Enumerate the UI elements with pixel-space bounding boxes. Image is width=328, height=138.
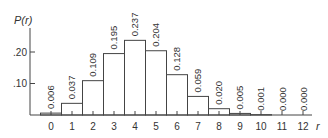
bar-value-label: 0.037 [67,76,78,100]
y-axis: .10.20 [13,28,35,115]
bar-value-label: 0.237 [130,13,141,37]
x-tick-label: 0 [48,121,54,132]
bar-value-label: 0.128 [172,47,183,71]
x-axis-label: r [316,120,321,132]
x-tick-label: 5 [153,121,159,132]
x-tick-label: 2 [90,121,96,132]
bar-value-label: 0.020 [214,81,225,105]
bar-value-label: 0.005 [235,86,246,110]
bars: 0.0060.0370.1090.1950.2370.2040.1280.059… [41,13,309,115]
bar [104,54,125,115]
bar-value-label: 0.059 [193,69,204,93]
bar-value-label: 0.204 [151,23,162,47]
x-tick-label: 12 [297,121,309,132]
y-axis-label: P(r) [14,14,33,26]
bar-value-label: 0.001 [256,87,267,111]
bar-value-label: 0.000 [298,87,309,111]
bar [167,75,188,115]
bar-value-label: 0.195 [109,26,120,50]
x-tick-label: 3 [111,121,117,132]
x-tick-label: 7 [195,121,201,132]
bar [125,40,146,115]
bar-value-label: 0.006 [46,85,57,109]
bar [83,81,104,115]
bar-value-label: 0.109 [88,53,99,77]
x-tick-label: 10 [255,121,267,132]
y-tick-label: .20 [13,47,27,58]
x-tick-label: 4 [132,121,138,132]
x-tick-label: 6 [174,121,180,132]
x-tick-label: 8 [216,121,222,132]
bar-value-label: 0.000 [277,87,288,111]
x-tick-label: 11 [277,121,288,132]
y-tick-label: .10 [13,78,27,89]
probability-histogram: P(r) .10.20 0.0060.0370.1090.1950.2370.2… [0,0,328,138]
x-tick-label: 9 [237,121,243,132]
x-tick-label: 1 [69,121,75,132]
bar [146,51,167,115]
